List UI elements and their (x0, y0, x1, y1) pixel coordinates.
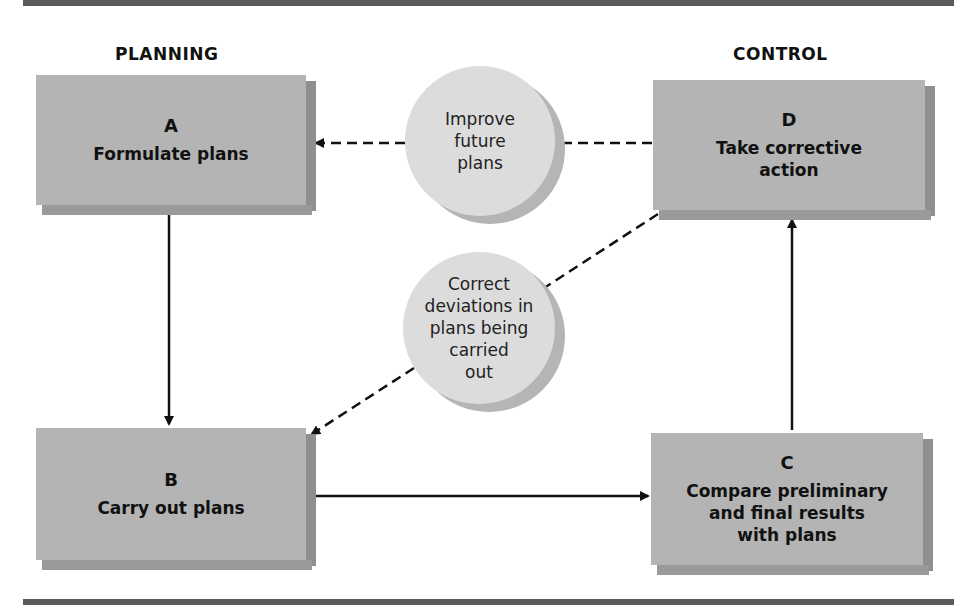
box-a-letter: A (164, 115, 178, 137)
box-b-label: Carry out plans (97, 497, 244, 519)
box-d-take-corrective-action: D Take corrective action (653, 80, 925, 210)
dashed-correct-to-b (312, 368, 414, 434)
box-c-compare-results: C Compare preliminary and final results … (651, 433, 923, 565)
box-c-label: Compare preliminary and final results wi… (686, 480, 888, 546)
circle-correct-deviations: Correct deviations in plans being carrie… (403, 252, 555, 404)
circle-correct-label: Correct deviations in plans being carrie… (425, 273, 534, 383)
box-c-letter: C (780, 452, 793, 474)
box-b-carry-out-plans: B Carry out plans (36, 428, 306, 560)
box-a-label: Formulate plans (93, 143, 248, 165)
box-d-label: Take corrective action (716, 137, 862, 181)
circle-improve-label: Improve future plans (445, 108, 515, 174)
box-a-formulate-plans: A Formulate plans (36, 75, 306, 205)
box-d-letter: D (782, 109, 797, 131)
dashed-d-to-correct (544, 214, 658, 288)
circle-improve-future-plans: Improve future plans (405, 66, 555, 216)
box-b-letter: B (164, 469, 178, 491)
